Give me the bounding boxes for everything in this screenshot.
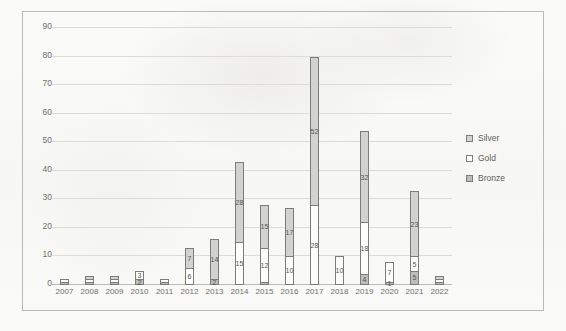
legend-item-label: Silver [478,133,499,143]
bar-segment-bronze[interactable] [85,282,94,285]
x-tick-label: 2009 [106,287,124,296]
bar-segment-silver[interactable]: 28 [235,162,244,242]
bar-segment-gold[interactable]: 6 [185,268,194,285]
bar-segment-gold[interactable]: 12 [260,248,269,282]
x-tick-label: 2008 [81,287,99,296]
bar-value-label: 15 [261,223,269,230]
bar-group[interactable]: 2355 [410,191,419,285]
y-tick-label: 50 [43,135,52,145]
bar-segment-bronze[interactable] [260,282,269,285]
bar-segment-silver[interactable]: 14 [210,239,219,279]
bar-segment-bronze[interactable] [160,282,169,285]
bars-layer: 327614228151512171052281032184712355 [52,28,452,285]
bar-group[interactable]: 1710 [285,208,294,285]
x-tick-label: 2017 [306,287,324,296]
bar-segment-silver[interactable]: 7 [185,248,194,268]
bar-group[interactable]: 76 [185,248,194,285]
y-tick-label: 90 [43,21,52,31]
x-tick-label: 2011 [156,287,173,296]
x-tick-label: 2010 [131,287,149,296]
bar-group[interactable]: 5228 [310,57,319,285]
bar-segment-gold[interactable]: 5 [410,256,419,270]
bar-value-label: 18 [361,245,369,252]
bar-segment-silver[interactable]: 32 [360,131,369,222]
y-tick-label: 10 [43,249,52,259]
legend-item-label: Bronze [478,173,505,183]
bar-segment-bronze[interactable]: 1 [385,282,394,285]
legend-item-label: Gold [478,153,496,163]
bar-value-label: 4 [363,276,367,283]
bar-group[interactable]: 142 [210,239,219,285]
bar-segment-gold[interactable]: 28 [310,205,319,285]
chart-legend: SilverGoldBronze [466,133,505,183]
bar-value-label: 7 [188,255,192,262]
bar-segment-gold[interactable]: 15 [235,242,244,285]
bar-segment-bronze[interactable]: 2 [210,279,219,285]
legend-item-silver[interactable]: Silver [466,133,505,143]
x-tick-label: 2012 [181,287,199,296]
bar-segment-silver[interactable]: 23 [410,191,419,257]
bar-segment-gold[interactable]: 18 [360,222,369,273]
bar-segment-bronze[interactable]: 5 [410,271,419,285]
bar-value-label: 6 [188,273,192,280]
bar-segment-gold[interactable]: 3 [135,271,144,280]
y-tick-label: 60 [43,107,52,117]
bar-value-label: 10 [286,267,294,274]
bar-value-label: 14 [211,256,219,263]
bar-value-label: 28 [236,199,244,206]
bar-segment-bronze[interactable] [60,282,69,285]
x-tick-label: 2015 [256,287,274,296]
x-axis: 2007200820092010201120122013201420152016… [52,287,452,303]
bar-value-label: 7 [388,269,392,276]
bar-segment-gold[interactable]: 10 [335,256,344,285]
x-tick-label: 2020 [381,287,399,296]
bar-group[interactable]: 71 [385,262,394,285]
legend-swatch-icon [466,135,473,142]
chart-figure: 0102030405060708090 32761422815151217105… [0,0,566,331]
legend-item-bronze[interactable]: Bronze [466,173,505,183]
bar-group[interactable] [60,279,69,285]
bar-segment-bronze[interactable]: 2 [135,279,144,285]
legend-item-gold[interactable]: Gold [466,153,505,163]
bar-value-label: 52 [311,128,319,135]
x-tick-label: 2021 [406,287,424,296]
bar-value-label: 15 [236,260,244,267]
y-tick-label: 20 [43,221,52,231]
bar-value-label: 3 [138,272,142,279]
bar-group[interactable] [160,279,169,285]
plot-area: 327614228151512171052281032184712355 [52,28,452,285]
bar-value-label: 28 [311,242,319,249]
bar-group[interactable] [110,276,119,285]
x-tick-label: 2014 [231,287,249,296]
x-tick-label: 2013 [206,287,224,296]
y-tick-label: 30 [43,192,52,202]
bar-segment-bronze[interactable] [435,282,444,285]
bar-group[interactable]: 1512 [260,205,269,285]
bar-value-label: 12 [261,262,269,269]
y-tick-label: 80 [43,50,52,60]
bar-segment-silver[interactable]: 52 [310,57,319,205]
bar-value-label: 5 [413,274,417,281]
bar-group[interactable] [85,276,94,285]
bar-segment-silver[interactable]: 17 [285,208,294,257]
bar-value-label: 2 [138,279,142,286]
y-axis: 0102030405060708090 [22,20,52,293]
x-tick-label: 2007 [56,287,74,296]
bar-segment-bronze[interactable] [110,282,119,285]
bar-segment-silver[interactable]: 15 [260,205,269,248]
bar-value-label: 32 [361,174,369,181]
bar-value-label: 5 [413,261,417,268]
bar-segment-gold[interactable]: 10 [285,256,294,285]
bar-value-label: 2 [213,279,217,286]
bar-group[interactable]: 10 [335,256,344,285]
bar-group[interactable]: 32 [135,271,144,285]
x-tick-label: 2022 [431,287,449,296]
x-tick-label: 2016 [281,287,299,296]
bar-group[interactable]: 32184 [360,131,369,285]
bar-segment-bronze[interactable]: 4 [360,274,369,285]
bar-group[interactable] [435,276,444,285]
bar-group[interactable]: 2815 [235,162,244,285]
y-tick-label: 40 [43,164,52,174]
bar-segment-gold[interactable]: 7 [385,262,394,282]
y-tick-label: 70 [43,78,52,88]
